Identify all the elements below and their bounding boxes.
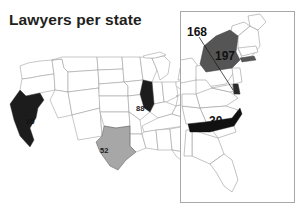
- state-minnesota: [122, 57, 143, 82]
- map-figure: Lawyers per state 85 88 52 197 30 168: [0, 0, 302, 217]
- inset-new-jersey: [232, 68, 242, 84]
- state-california-fill: [10, 90, 44, 147]
- state-nebraska: [99, 82, 128, 96]
- us-map-canvas: [0, 0, 302, 217]
- state-south-dakota: [98, 69, 124, 84]
- state-ohio: [162, 82, 178, 102]
- inset-ohio: [170, 58, 198, 84]
- state-kansas: [99, 96, 129, 112]
- state-alabama: [156, 129, 172, 150]
- state-oklahoma: [100, 112, 130, 128]
- state-north-dakota: [97, 57, 123, 70]
- page-title: Lawyers per state: [9, 11, 142, 29]
